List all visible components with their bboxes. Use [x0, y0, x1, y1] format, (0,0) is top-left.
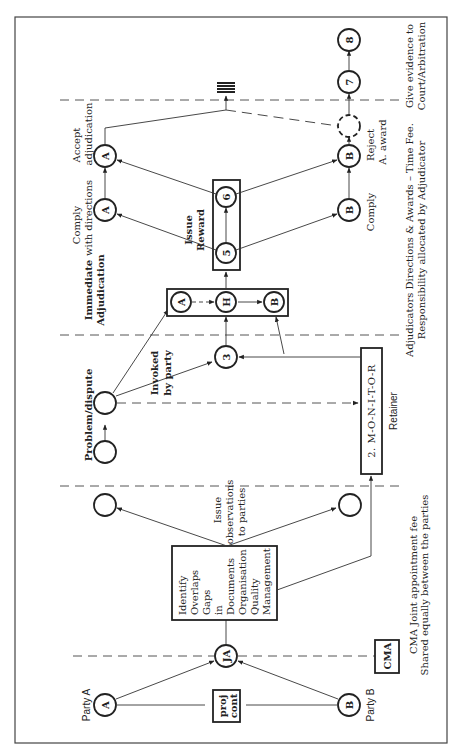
svg-text:B: B — [344, 206, 355, 214]
problem-dispute-label: Problem/dispute — [83, 369, 94, 462]
arrow-5-comply-b — [236, 214, 337, 250]
party-b-node: B — [338, 694, 360, 716]
line-accept-documents — [105, 110, 226, 145]
svg-text:in: in — [213, 605, 224, 615]
svg-text:B: B — [344, 152, 355, 160]
node-7: 7 — [338, 71, 360, 93]
svg-text:Quality: Quality — [249, 578, 260, 615]
arrow-b-ja — [238, 661, 338, 699]
issue-reward-line1: Issue — [183, 215, 194, 245]
arrow-6-reject-b — [236, 160, 337, 194]
immediate-adjudication-line1: Immediate — [83, 260, 94, 320]
observation-node-a — [94, 494, 116, 516]
issue-reward-box: 5 6 — [213, 180, 240, 270]
svg-text:6: 6 — [221, 193, 232, 200]
svg-text:B: B — [344, 701, 355, 709]
svg-text:3: 3 — [221, 353, 232, 360]
retainer-label: Retainer — [388, 391, 399, 429]
svg-text:JA: JA — [221, 650, 232, 664]
svg-text:7: 7 — [344, 78, 355, 85]
court-note-line1: Give evidence to — [404, 24, 415, 108]
issue-observations-line1: Issue — [212, 497, 223, 524]
adjudication-flow-diagram: A Party A B Party B proj cont JA CMA CMA… — [0, 0, 455, 754]
dashed-reject-documents — [226, 110, 338, 126]
invoked-by-party-line2: by party — [162, 349, 173, 396]
immediate-adjudication-line2: Adjudication — [95, 254, 106, 327]
reject-award-line1: Reject — [365, 129, 376, 161]
observation-node-b — [339, 494, 361, 516]
node-3: 3 — [215, 346, 237, 368]
arrow-a-ja — [116, 661, 214, 699]
comply-b-label: Comply — [365, 192, 376, 231]
svg-text:B: B — [269, 298, 280, 306]
monitor-box: 2. M-O-N-I-T-O-R — [361, 348, 382, 474]
accept-adjudication-line2: adjudication — [83, 102, 94, 165]
invoked-by-party-line1: Invoked — [149, 351, 160, 396]
svg-text:Identify: Identify — [177, 575, 188, 615]
node-8: 8 — [338, 29, 360, 51]
comply-b-node: B — [338, 199, 360, 221]
svg-text:Overlaps: Overlaps — [189, 570, 200, 615]
pending-dashed-node — [338, 115, 360, 137]
issue-reward-line2: Reward — [195, 209, 206, 251]
issue-observations-line2: observations — [224, 480, 235, 545]
cma-fee-note-line2: Shared equally between the parties — [419, 495, 430, 676]
problem-dispute-node — [94, 392, 116, 414]
svg-text:A: A — [100, 701, 111, 710]
reject-award-line2: A. award — [377, 119, 388, 166]
svg-text:8: 8 — [344, 36, 355, 43]
reject-award-node: B — [338, 145, 360, 167]
document-stack-icon — [217, 82, 235, 93]
svg-text:2. M-O-N-I-T-O-R: 2. M-O-N-I-T-O-R — [366, 364, 377, 458]
comply-directions-line1: Comply — [71, 205, 82, 244]
project-contract-box: proj cont — [213, 690, 240, 722]
svg-text:A: A — [100, 206, 111, 215]
svg-text:cont: cont — [228, 693, 239, 718]
arrow-6-accept-a — [117, 160, 216, 194]
start-node — [94, 441, 116, 463]
comply-directions-node: A — [94, 199, 116, 221]
hearing-box: A H B — [167, 289, 288, 316]
adjudicator-note-line2: Responsibility allocated by Adjudicator — [416, 141, 427, 340]
adjudicator-note-line1: Adjudicators Directions & Awards – Time … — [404, 123, 415, 358]
identify-box: Identify Overlaps Gaps in Documents Orga… — [172, 546, 277, 620]
comply-directions-line2: with directions — [83, 180, 94, 256]
cma-fee-note-line1: CMA Joint appointment fee — [408, 516, 419, 654]
accept-adjudication-node: A — [94, 145, 116, 167]
arrow-observations-a — [117, 508, 227, 546]
arrow-identify-monitor — [277, 476, 371, 590]
issue-observations-line3: to parties — [236, 488, 247, 537]
svg-text:A: A — [100, 152, 111, 161]
svg-text:Gaps: Gaps — [201, 590, 212, 615]
party-b-label: Party B — [365, 688, 376, 721]
accept-adjudication-line1: Accept — [71, 128, 82, 164]
svg-text:proj: proj — [217, 695, 228, 718]
cma-box: CMA — [375, 640, 399, 673]
svg-text:H: H — [221, 297, 232, 306]
svg-text:Management: Management — [261, 548, 272, 615]
svg-text:CMA: CMA — [382, 642, 393, 669]
court-note-line2: Court/Arbitration — [416, 21, 427, 110]
joint-appointment-node: JA — [215, 645, 237, 667]
party-a-node: A — [94, 694, 116, 716]
party-a-label: Party A — [81, 689, 92, 722]
svg-text:Organisation: Organisation — [237, 549, 248, 615]
svg-text:Documents: Documents — [225, 558, 236, 615]
svg-text:5: 5 — [221, 249, 232, 256]
svg-text:A: A — [176, 298, 187, 307]
